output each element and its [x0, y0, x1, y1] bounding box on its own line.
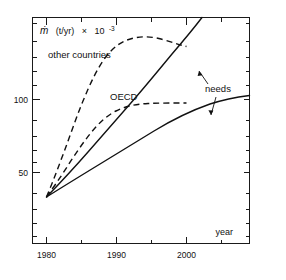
x-tick-label-1980: 1980 — [37, 250, 56, 260]
y-tick-label-100: 100 — [14, 95, 28, 105]
y-axis-title-times: × — [82, 26, 87, 36]
x-axis-title: year — [215, 227, 233, 237]
chart-svg: 100 50 1980 1990 2000 ṁ (t/yr) × 10 -3 y… — [0, 0, 286, 280]
x-tick-label-1990: 1990 — [107, 250, 126, 260]
y-axis-title-base: 10 — [94, 26, 104, 36]
x-axis-ticks-bottom — [47, 237, 222, 244]
y-axis-title-symbol: ṁ — [40, 25, 48, 36]
data-curves — [47, 18, 250, 198]
series-label-other-countries: other countries — [48, 49, 111, 60]
y-tick-label-50: 50 — [19, 168, 29, 178]
y-axis-ticks-right — [244, 24, 250, 237]
needs-arrowhead-upper-icon — [198, 71, 203, 76]
series-label-oecd: OECD — [110, 91, 138, 102]
curve-needs-lower — [47, 96, 250, 198]
chart-figure: 100 50 1980 1990 2000 ṁ (t/yr) × 10 -3 y… — [0, 0, 286, 280]
y-axis-ticks-left — [33, 24, 40, 237]
x-tick-label-2000: 2000 — [177, 250, 196, 260]
y-axis-title-unit: (t/yr) — [56, 26, 75, 36]
curve-oecd — [47, 103, 187, 197]
needs-arrowhead-lower-icon — [208, 110, 213, 115]
y-axis-title: ṁ (t/yr) × 10 -3 — [40, 20, 115, 37]
series-annotation-needs: needs — [198, 71, 232, 115]
series-label-needs: needs — [205, 83, 231, 94]
svg-text:ṁ (t/yr) ×: ṁ (t/yr) × 10 -3 — [40, 20, 115, 37]
x-axis-ticks-top — [47, 18, 222, 25]
y-axis-title-exponent: -3 — [109, 25, 115, 32]
